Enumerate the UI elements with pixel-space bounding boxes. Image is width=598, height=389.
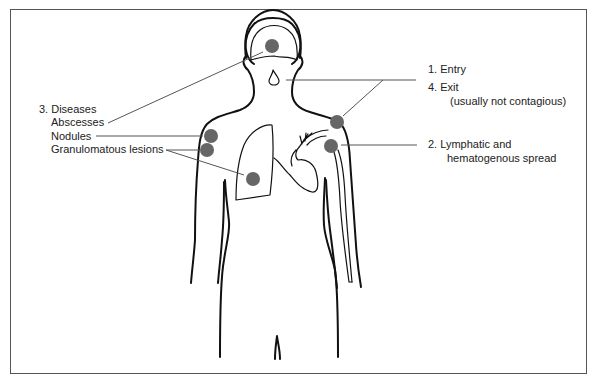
label-granulomatous: Granulomatous lesions bbox=[51, 143, 164, 156]
lesion-lung bbox=[246, 172, 260, 186]
lymphatic-vessel-2 bbox=[307, 136, 326, 145]
nose bbox=[269, 70, 279, 85]
label-exit-note: (usually not contagious) bbox=[450, 95, 566, 108]
leader-abscess-brain bbox=[108, 52, 263, 123]
lesion-brain bbox=[265, 39, 279, 53]
right-torso bbox=[324, 178, 338, 357]
label-diseases: 3. Diseases bbox=[39, 103, 96, 116]
lesion-shoulder-right bbox=[330, 115, 344, 129]
label-exit: 4. Exit bbox=[428, 81, 459, 94]
body-outline-right bbox=[292, 56, 361, 287]
label-spread-1: 2. Lymphatic and bbox=[428, 138, 511, 151]
body-diagram bbox=[0, 0, 598, 389]
lung bbox=[236, 125, 273, 200]
lesion-lymph-node bbox=[324, 139, 338, 153]
crotch-mark bbox=[275, 336, 280, 359]
lesion-arm bbox=[200, 143, 214, 157]
heart bbox=[274, 133, 318, 192]
leader-exit-shoulder bbox=[343, 80, 383, 116]
lesion-nodule bbox=[204, 129, 218, 143]
label-spread-2: hematogenous spread bbox=[447, 152, 556, 165]
label-entry: 1. Entry bbox=[428, 63, 466, 76]
label-nodules: Nodules bbox=[51, 130, 91, 143]
label-abscesses: Abscesses bbox=[51, 116, 104, 129]
